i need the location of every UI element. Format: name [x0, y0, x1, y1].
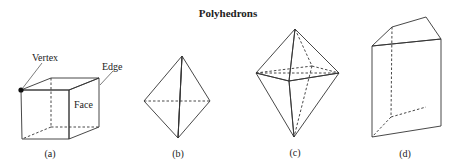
- vertex-label: Vertex: [32, 52, 58, 63]
- caption-a: (a): [44, 148, 55, 160]
- cube-front-face: [21, 90, 69, 139]
- caption-b: (b): [172, 148, 184, 160]
- figure-b-bipyramid: (b): [144, 56, 210, 160]
- edge-label: Edge: [102, 61, 123, 72]
- figure-d-prism: (d): [372, 17, 441, 160]
- polyhedrons-diagram: Vertex Edge Face (a) (b) (c) (d): [0, 0, 456, 165]
- figure-a-cube: Vertex Edge Face (a): [18, 52, 123, 160]
- cube-top-face: [21, 78, 99, 90]
- caption-d: (d): [399, 148, 411, 160]
- figure-c-bipyramid: (c): [256, 29, 339, 159]
- face-label: Face: [74, 99, 93, 110]
- caption-c: (c): [289, 147, 300, 159]
